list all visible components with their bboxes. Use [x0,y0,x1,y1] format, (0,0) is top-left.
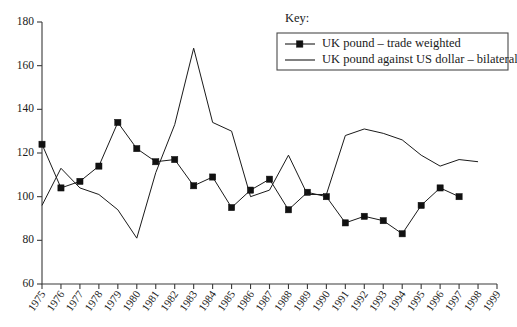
series-line-trade-weighted [42,122,459,233]
data-point-marker [210,174,216,180]
data-point-marker [172,156,178,162]
data-point-marker [58,185,64,191]
x-axis-label: 1999 [480,288,503,313]
x-axis-label: 1980 [120,288,143,313]
y-axis-label: 180 [17,15,35,27]
x-axis-label: 1982 [158,288,180,313]
legend-marker-square [297,41,303,47]
x-axis-label: 1994 [385,288,408,313]
data-point-marker [266,176,272,182]
x-axis-label: 1983 [177,288,200,313]
x-axis-label: 1975 [25,288,48,313]
legend-item[interactable]: UK pound against US dollar – bilateral [285,52,517,66]
y-axis-label: 80 [23,233,35,245]
data-point-marker [380,218,386,224]
y-axis-label: 60 [23,277,35,289]
x-axis-label: 1985 [215,288,238,313]
x-axis-label: 1988 [272,288,295,313]
data-point-marker [153,159,159,165]
series-line-bilateral [42,48,478,238]
data-point-marker [96,163,102,169]
data-point-marker [191,183,197,189]
x-axis-label: 1990 [310,288,333,313]
chart-canvas: 6080100120140160180197519761977197819791… [0,0,517,327]
x-axis-label: 1979 [101,288,124,313]
data-point-marker [285,207,291,213]
y-axis-label: 140 [17,102,35,114]
x-axis-label: 1986 [234,288,257,313]
x-axis-label: 1989 [291,288,314,313]
legend-label-trade-weighted: UK pound – trade weighted [322,36,462,50]
x-axis-label: 1984 [196,288,219,313]
data-point-marker [342,220,348,226]
data-point-marker [361,213,367,219]
x-axis-label: 1992 [347,288,369,313]
legend-label-bilateral: UK pound against US dollar – bilateral [322,52,517,66]
y-axis-label: 160 [17,59,35,71]
x-axis-label: 1977 [63,288,86,313]
data-point-marker [437,185,443,191]
x-axis-label: 1996 [423,288,446,313]
legend-title: Key: [285,11,309,25]
x-axis-label: 1993 [366,288,389,313]
data-point-marker [399,231,405,237]
data-point-marker [418,202,424,208]
x-axis-label: 1981 [139,288,161,313]
data-point-marker [228,204,234,210]
x-axis-label: 1976 [44,288,67,313]
legend-item[interactable]: UK pound – trade weighted [285,36,462,50]
data-point-marker [456,194,462,200]
x-axis-label: 1995 [404,288,427,313]
x-axis-label: 1997 [442,288,465,313]
x-axis-label: 1998 [461,288,484,313]
data-point-marker [77,178,83,184]
data-point-marker [115,119,121,125]
x-axis-label: 1987 [253,288,276,313]
exchange-rate-line-chart: 6080100120140160180197519761977197819791… [0,0,517,327]
x-axis-label: 1991 [329,288,351,313]
data-point-marker [134,146,140,152]
y-axis-label: 100 [17,190,35,202]
data-point-marker [39,141,45,147]
x-axis-label: 1978 [82,288,105,313]
y-axis-label: 120 [17,146,35,158]
